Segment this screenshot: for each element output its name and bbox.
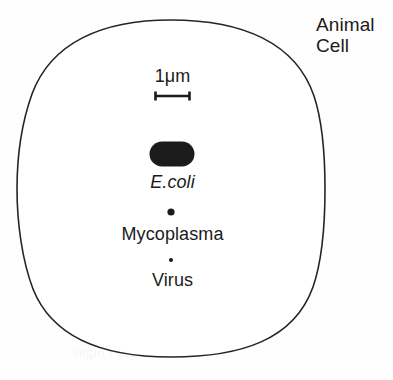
mycoplasma-label: Mycoplasma (0, 224, 345, 244)
mycoplasma-dot-glyph (167, 208, 174, 215)
scale-bar-label: 1μm (0, 66, 345, 86)
animal-cell-label: AnimalCell (316, 14, 375, 57)
animal-cell-label-line1: Animal (316, 14, 375, 35)
virus-label: Virus (0, 270, 345, 290)
virus-dot-glyph (169, 258, 173, 262)
ecoli-label: E.coli (0, 172, 345, 192)
ecoli-capsule-glyph (150, 142, 195, 167)
animal-cell-scale-diagram: apenas o maior copia imperial regio i gi… (0, 0, 393, 380)
animal-cell-label-line2: Cell (316, 35, 349, 56)
